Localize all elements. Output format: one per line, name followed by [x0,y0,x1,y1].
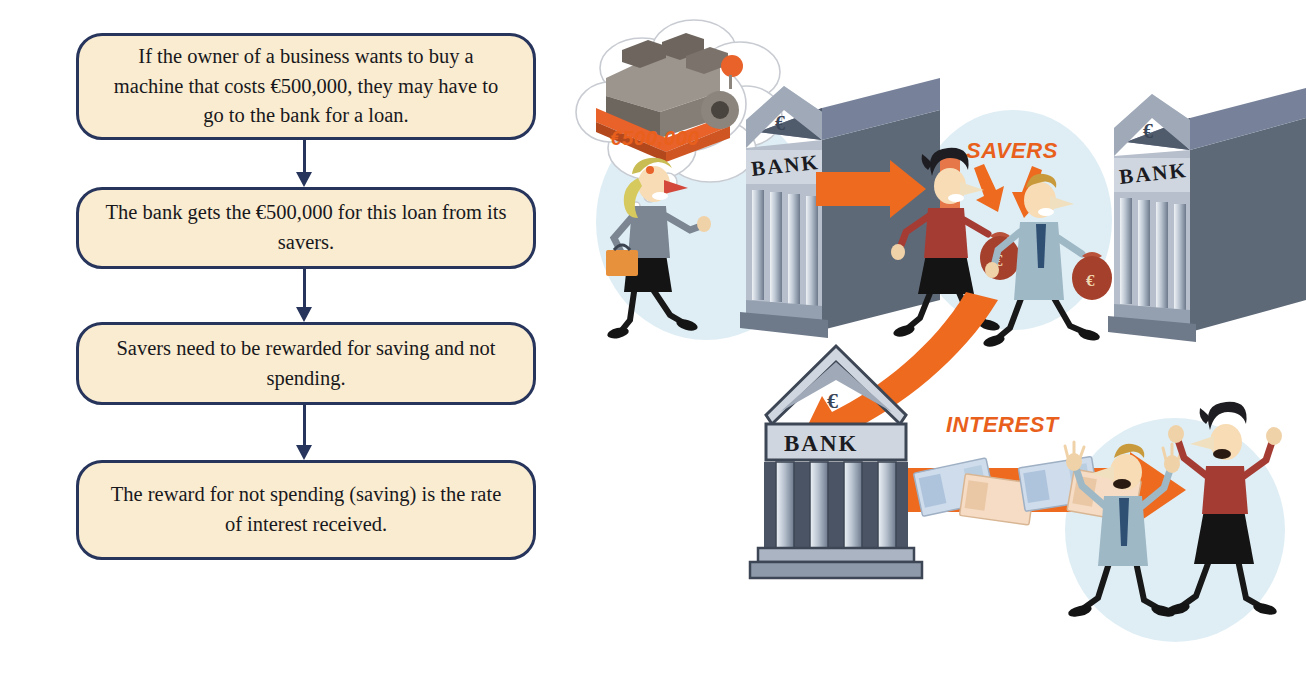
flowchart-step-1-text: If the owner of a business wants to buy … [105,42,507,131]
thought-amount-label: €500,000 [610,126,700,149]
arrow-head-icon [296,445,312,460]
illustration-panel: €500,000 [570,0,1306,699]
flow-connector-arrow-1 [294,140,314,187]
arrow-head-icon [296,307,312,322]
svg-text:€: € [1143,120,1153,142]
flowchart-step-4: The reward for not spending (saving) is … [76,460,536,560]
flowchart-step-1: If the owner of a business wants to buy … [76,33,536,140]
interest-label: INTEREST [946,412,1060,437]
svg-text:€: € [775,112,785,134]
arrow-head-icon [296,172,312,187]
flowchart-step-2: The bank gets the €500,000 for this loan… [76,187,536,269]
flowchart-step-3-text: Savers need to be rewarded for saving an… [105,334,507,393]
connector-shaft [303,269,306,309]
flow-connector-arrow-3 [294,405,314,460]
flowchart-step-4-text: The reward for not spending (saving) is … [105,480,507,539]
svg-text:€: € [827,388,838,413]
flowchart: If the owner of a business wants to buy … [0,0,570,699]
flowchart-step-2-text: The bank gets the €500,000 for this loan… [105,198,507,257]
bank-sign-bottom: BANK [784,431,858,456]
bank-building-top-right: € BANK [1108,88,1306,342]
connector-shaft [303,140,306,174]
flowchart-step-3: Savers need to be rewarded for saving an… [76,322,536,405]
svg-text:€: € [1086,271,1095,290]
flow-connector-arrow-2 [294,269,314,322]
savers-label: SAVERS [966,138,1058,163]
connector-shaft [303,405,306,447]
